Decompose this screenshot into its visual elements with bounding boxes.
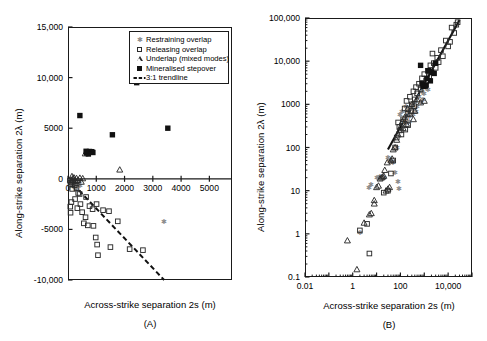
data-point-mineralised-stepover bbox=[418, 63, 423, 68]
data-point-releasing-overlap bbox=[91, 224, 96, 229]
axis-tick-label: 10,000 bbox=[274, 56, 301, 66]
data-point-mineralised-stepover bbox=[110, 132, 115, 137]
data-point-mineralised-stepover bbox=[428, 78, 433, 83]
data-point-underlap bbox=[354, 266, 360, 271]
axis-tick-label: 100 bbox=[286, 143, 301, 153]
filled-square-icon bbox=[133, 66, 146, 71]
axis-tick-label: 1000 bbox=[281, 99, 300, 109]
gray-star-icon: ✱ bbox=[133, 36, 146, 43]
open-triangle-icon bbox=[133, 56, 146, 61]
data-point-releasing-overlap bbox=[93, 235, 98, 240]
panel-a: -10,000-50000500010,00015,00001000200030… bbox=[0, 0, 244, 341]
data-point-releasing-overlap bbox=[90, 207, 95, 212]
data-point-releasing-overlap bbox=[68, 204, 73, 209]
data-point-restraining-overlap: ✱ bbox=[161, 217, 167, 226]
figure-container: -10,000-50000500010,00015,00001000200030… bbox=[0, 0, 487, 341]
data-point-mineralised-stepover bbox=[83, 149, 88, 154]
legend-label: Releasing overlap bbox=[146, 45, 207, 55]
axis-tick-label: 3000 bbox=[143, 183, 162, 193]
data-series-group-b: ✱✱✱✱✱✱✱✱✱✱✱✱✱✱✱✱✱✱✱✱✱✱✱✱✱✱✱✱✱✱✱✱✱✱✱✱ bbox=[344, 20, 460, 272]
data-point-releasing-overlap bbox=[96, 253, 101, 258]
axis-tick-label: 100 bbox=[393, 281, 408, 291]
data-point-mineralised-stepover bbox=[433, 60, 438, 65]
x-axis-title-a: Across-strike separation 2s (m) bbox=[68, 299, 232, 310]
data-point-releasing-overlap bbox=[141, 248, 146, 253]
data-point-releasing-overlap bbox=[108, 245, 113, 250]
axis-tick-label: 15,000 bbox=[37, 22, 64, 32]
data-point-mineralised-stepover bbox=[431, 71, 436, 76]
data-point-restraining-overlap: ✱ bbox=[396, 184, 402, 193]
axis-tick-label: 1 bbox=[295, 229, 300, 239]
y-axis-title-b: Along-strike separation 2λ (m) bbox=[255, 102, 266, 232]
legend-item: 3:1 trendline bbox=[133, 73, 224, 83]
panel-b: 0.1110100100010,000100,0000.01110010,000… bbox=[244, 0, 487, 341]
axis-tick-label: 5000 bbox=[44, 123, 63, 133]
y-axis-title-a: Along-strike separation 2λ (m) bbox=[13, 108, 24, 238]
data-point-releasing-overlap bbox=[95, 242, 100, 247]
data-point-underlap bbox=[382, 167, 388, 172]
legend-item: Releasing overlap bbox=[133, 45, 224, 55]
data-point-releasing-overlap bbox=[430, 51, 435, 56]
data-point-releasing-overlap bbox=[94, 202, 99, 207]
axis-tick-label: 100,000 bbox=[269, 13, 300, 23]
data-point-releasing-overlap bbox=[115, 219, 120, 224]
data-point-releasing-overlap bbox=[68, 210, 73, 215]
axis-tick-label: 0.01 bbox=[297, 281, 314, 291]
legend-a: ✱ Restraining overlap Releasing overlap … bbox=[129, 31, 229, 84]
data-point-releasing-overlap bbox=[83, 215, 88, 220]
data-point-underlap bbox=[361, 220, 367, 225]
axis-tick-label: 0 bbox=[58, 174, 63, 184]
x-axis-title-b: Across-strike separation 2s (m) bbox=[299, 300, 479, 311]
legend-label: 3:1 trendline bbox=[146, 73, 188, 83]
data-point-mineralised-stepover bbox=[419, 81, 424, 86]
axis-tick-label: 1000 bbox=[87, 183, 106, 193]
legend-label: Mineralised stepover bbox=[146, 64, 216, 74]
data-point-mineralised-stepover bbox=[77, 113, 82, 118]
panel-label-b: (B) bbox=[359, 319, 419, 330]
data-point-releasing-overlap bbox=[80, 210, 85, 215]
plot-area-b: 0.1110100100010,000100,0000.01110010,000… bbox=[244, 0, 487, 341]
legend-item: ✱ Restraining overlap bbox=[133, 35, 224, 45]
data-point-releasing-overlap bbox=[101, 208, 106, 213]
data-point-releasing-overlap bbox=[127, 247, 132, 252]
legend-label: Restraining overlap bbox=[146, 35, 211, 45]
axis-tick-label: -10,000 bbox=[34, 275, 63, 285]
panel-label-a: (A) bbox=[120, 318, 180, 329]
axis-tick-label: 2000 bbox=[115, 183, 134, 193]
axis-tick-label: 10 bbox=[290, 186, 300, 196]
legend-item: Underlap (mixed modes) bbox=[133, 54, 224, 64]
data-point-mineralised-stepover bbox=[165, 126, 170, 131]
open-square-icon bbox=[133, 47, 146, 51]
legend-label: Underlap (mixed modes) bbox=[146, 54, 229, 64]
legend-item: Mineralised stepover bbox=[133, 64, 224, 74]
data-point-releasing-overlap bbox=[367, 251, 372, 256]
axis-tick-label: 10,000 bbox=[37, 73, 64, 83]
axis-tick bbox=[68, 179, 164, 280]
dashed-line-icon bbox=[133, 75, 146, 81]
data-point-underlap bbox=[117, 167, 123, 172]
data-point-releasing-overlap bbox=[107, 209, 112, 214]
axis-tick-label: 1 bbox=[350, 281, 355, 291]
data-point-underlap bbox=[344, 238, 350, 243]
axis-tick-label: -5000 bbox=[41, 224, 63, 234]
axis-tick-label: 10,000 bbox=[435, 281, 462, 291]
axis-tick-label: 5000 bbox=[200, 183, 219, 193]
axis-tick-label: 4000 bbox=[172, 183, 191, 193]
